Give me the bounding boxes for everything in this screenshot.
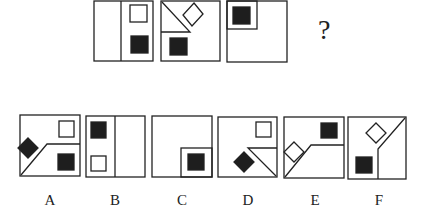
option-figure-d[interactable] xyxy=(218,117,277,177)
option-figure-e[interactable] xyxy=(284,117,344,178)
option-label-f[interactable]: F xyxy=(369,192,389,209)
question-figure-1 xyxy=(94,1,153,61)
white-square-icon xyxy=(130,5,147,22)
option-figure-f[interactable] xyxy=(348,117,406,179)
black-square-icon xyxy=(91,122,106,138)
option-figure-a[interactable] xyxy=(18,115,80,176)
white-square-icon xyxy=(256,122,271,137)
black-square-icon xyxy=(233,7,250,24)
puzzle-canvas xyxy=(0,0,425,217)
white-diamond-icon xyxy=(366,123,386,143)
black-square-icon xyxy=(58,154,74,170)
white-square-icon xyxy=(59,121,74,137)
option-label-e[interactable]: E xyxy=(305,192,325,209)
option-figure-c[interactable] xyxy=(152,116,212,177)
white-diamond-icon xyxy=(183,3,203,26)
option-label-d[interactable]: D xyxy=(238,192,258,209)
option-label-b[interactable]: B xyxy=(105,192,125,209)
option-label-c[interactable]: C xyxy=(172,192,192,209)
white-square-icon xyxy=(91,156,106,171)
black-square-icon xyxy=(170,38,187,55)
white-diamond-icon xyxy=(284,142,304,162)
black-square-icon xyxy=(188,154,204,170)
option-label-a[interactable]: A xyxy=(40,192,60,209)
question-figure-3 xyxy=(227,1,287,62)
question-mark: ? xyxy=(318,14,330,46)
black-square-icon xyxy=(321,123,337,138)
question-figure-2 xyxy=(161,1,220,61)
option-figure-b[interactable] xyxy=(86,116,145,177)
black-diamond-icon xyxy=(234,152,254,172)
black-square-icon xyxy=(131,36,148,53)
black-square-icon xyxy=(356,157,372,173)
black-diamond-icon xyxy=(18,138,38,158)
